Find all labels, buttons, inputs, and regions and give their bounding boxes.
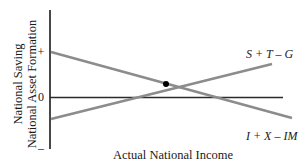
saving-curve-label: S + T – G xyxy=(246,47,294,61)
y-axis-label-line1: National Saving xyxy=(11,43,25,125)
y-axis-label-line2: National Asset Formation xyxy=(25,19,39,148)
x-axis-label: Actual National Income xyxy=(113,148,234,162)
saving-curve xyxy=(51,64,272,119)
saving-investment-diagram: National Saving National Asset Formation… xyxy=(0,0,306,164)
tick-plus: + xyxy=(38,45,45,59)
asset-formation-curve xyxy=(51,52,292,118)
tick-zero: 0 xyxy=(38,90,44,104)
equilibrium-point xyxy=(163,81,169,87)
asset-formation-curve-label: I + X – IM xyxy=(245,129,298,143)
tick-minus: – xyxy=(37,141,45,155)
